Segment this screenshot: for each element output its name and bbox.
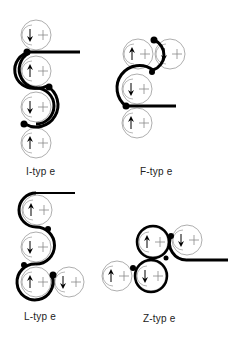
z-type-diagram [102,225,228,292]
f-type-label: F-typ e [140,166,173,177]
l-type-diagram [17,193,84,300]
i-type-label: I-typ e [26,166,55,177]
i-type-diagram [15,20,80,158]
z-type-label: Z-typ e [143,313,176,324]
l-type-label: L-typ e [24,311,56,322]
f-type-diagram [117,37,185,139]
